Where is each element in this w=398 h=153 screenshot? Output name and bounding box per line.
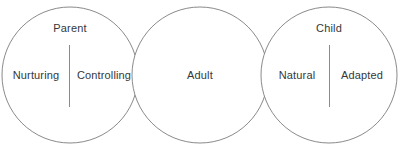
parent-nurturing-label: Nurturing	[13, 69, 60, 82]
child-label: Child	[316, 22, 342, 35]
parent-label: Parent	[53, 22, 86, 35]
child-adapted-label: Adapted	[341, 69, 383, 82]
ego-states-diagram: Parent Nurturing Controlling Adult Child…	[0, 0, 398, 153]
adult-label: Adult	[187, 69, 213, 82]
child-natural-label: Natural	[279, 69, 316, 82]
parent-controlling-label: Controlling	[77, 69, 131, 82]
